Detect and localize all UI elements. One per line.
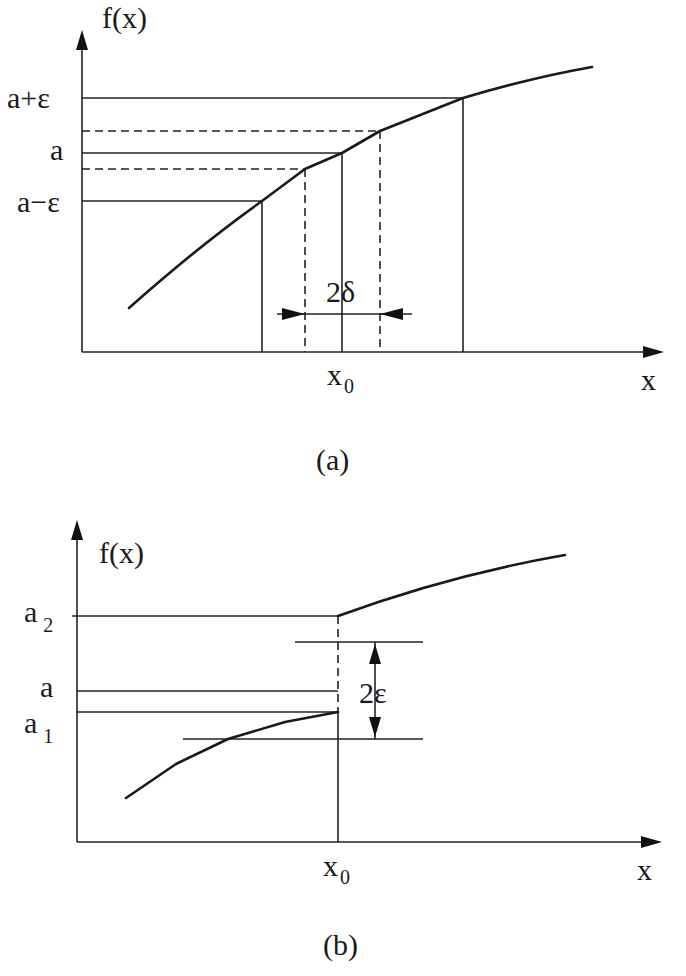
y-axis-label-b: f(x) [99,536,144,570]
tick-label-a-plus-eps: a+ε [7,81,50,114]
figure-a: f(x) a+ε a a−ε 2δ x0 x (a) [7,1,664,477]
y-axis-arrow-icon [76,30,88,50]
x0-label-a: x0 [327,358,354,397]
epsilon-interval-label: 2ε [359,676,387,709]
x0-label-b: x0 [323,849,350,888]
arrow-left-icon [380,308,403,320]
tick-label-a: a [50,133,63,166]
figure-b: f(x) a2 a a1 2ε x0 x (b) [24,520,662,962]
arrow-up-icon [369,644,381,664]
caption-b: (b) [323,928,358,962]
y-axis-label-a: f(x) [102,1,147,35]
function-curve-right-b [338,555,565,616]
delta-interval-label: 2δ [326,275,355,308]
tick-label-a-minus-eps: a−ε [17,185,60,218]
arrow-right-icon [282,308,305,320]
caption-a: (a) [316,443,349,477]
x-axis-arrow-icon [643,346,664,358]
x-axis-arrow-icon [641,836,662,848]
tick-label-a1: a1 [24,706,53,747]
x-axis-label-a: x [641,363,656,396]
figure-canvas: f(x) a+ε a a−ε 2δ x0 x (a) f(x) a2 [0,0,686,976]
tick-label-a: a [40,670,53,703]
function-curve-left-b [126,712,338,798]
x-axis-label-b: x [637,853,652,886]
arrow-down-icon [369,717,381,737]
y-axis-arrow-icon [71,520,83,540]
function-curve-a [129,67,592,308]
tick-label-a2: a2 [24,595,53,636]
